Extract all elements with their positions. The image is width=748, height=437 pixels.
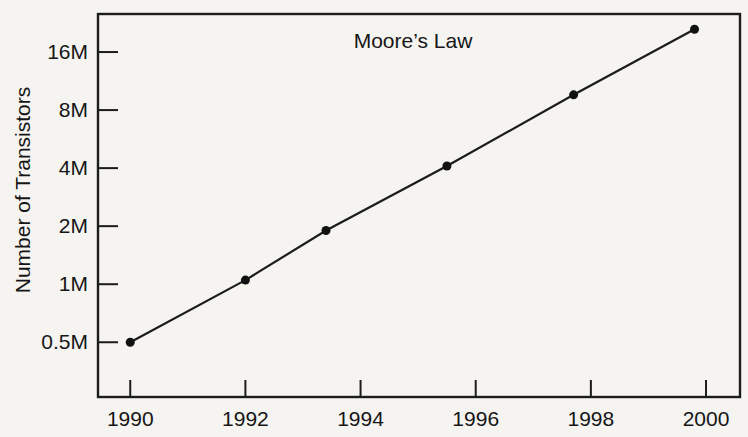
chart-canvas: Moore’s Law Number of Transistors 199019… [0, 0, 748, 437]
chart-title: Moore’s Law [354, 29, 474, 52]
x-tick-label: 2000 [683, 407, 730, 430]
data-point [690, 25, 699, 34]
y-tick-label: 8M [59, 98, 88, 121]
x-tick-label: 1994 [337, 407, 384, 430]
y-tick-label: 16M [47, 40, 88, 63]
x-tick-label: 1996 [452, 407, 499, 430]
data-point [569, 90, 578, 99]
y-tick-label: 4M [59, 156, 88, 179]
data-line [130, 29, 694, 342]
plot-border [98, 14, 740, 397]
data-point [442, 162, 451, 171]
y-tick-label: 2M [59, 214, 88, 237]
x-tick-label: 1990 [107, 407, 154, 430]
moores-law-chart: Moore’s Law Number of Transistors 199019… [0, 0, 748, 437]
x-tick-label: 1998 [568, 407, 615, 430]
y-axis-label: Number of Transistors [11, 87, 34, 294]
y-tick-label: 0.5M [41, 330, 88, 353]
data-point [322, 226, 331, 235]
x-tick-label: 1992 [222, 407, 269, 430]
y-tick-label: 1M [59, 272, 88, 295]
data-point [126, 338, 135, 347]
data-point [241, 276, 250, 285]
